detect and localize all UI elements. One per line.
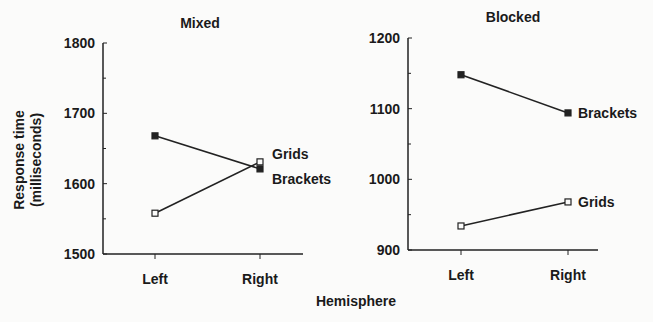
mixed-panel: Mixed1500160017001800LeftRightGridsBrack…: [64, 15, 332, 287]
x-tick-label: Right: [550, 267, 586, 283]
filled-square-marker: [458, 72, 464, 78]
series-label-brackets: Brackets: [272, 171, 331, 187]
filled-square-marker: [565, 110, 571, 116]
figure: Response time (milliseconds) Mixed150016…: [0, 0, 653, 322]
series-label-brackets: Brackets: [578, 105, 637, 121]
series-line-grids: [155, 162, 260, 213]
y-tick-label: 1800: [64, 35, 95, 51]
open-square-marker: [458, 223, 464, 229]
blocked-panel: Blocked900100011001200LeftRightBracketsG…: [369, 9, 638, 283]
y-tick-label: 1200: [369, 30, 400, 46]
series-line-brackets: [155, 136, 260, 169]
y-tick-label: 1000: [369, 171, 400, 187]
open-square-marker: [152, 210, 158, 216]
y-tick-label: 1500: [64, 246, 95, 262]
series-label-grids: Grids: [272, 146, 309, 162]
x-axis-label: Hemisphere: [316, 293, 396, 309]
y-axis-label: Response time (milliseconds): [11, 110, 44, 210]
y-tick-label: 1700: [64, 105, 95, 121]
x-tick-label: Left: [448, 267, 474, 283]
y-tick-label: 900: [377, 242, 401, 258]
panel-title: Blocked: [486, 9, 540, 25]
svg-text:(milliseconds): (milliseconds): [28, 113, 44, 207]
series-line-brackets: [461, 75, 568, 113]
filled-square-marker: [257, 166, 263, 172]
x-tick-label: Right: [242, 271, 278, 287]
y-tick-label: 1600: [64, 176, 95, 192]
filled-square-marker: [152, 133, 158, 139]
x-tick-label: Left: [142, 271, 168, 287]
y-tick-label: 1100: [370, 101, 401, 117]
series-label-grids: Grids: [578, 194, 615, 210]
panel-title: Mixed: [180, 15, 220, 31]
series-line-grids: [461, 202, 568, 226]
open-square-marker: [257, 159, 263, 165]
open-square-marker: [565, 199, 571, 205]
svg-text:Response time: Response time: [11, 110, 27, 210]
